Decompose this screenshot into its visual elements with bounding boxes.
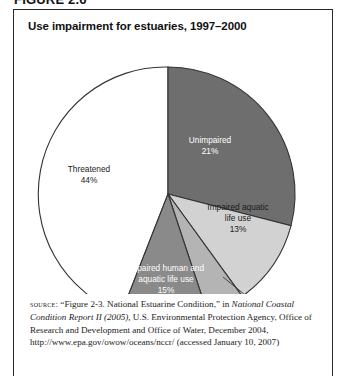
pie-label-impaired-aquatic-value: 13%	[230, 224, 247, 234]
pie-chart: Unimpaired 21% Impaired aquatic life use…	[14, 44, 332, 294]
pie-label-unimpaired-line1: Unimpaired	[189, 135, 232, 145]
pie-label-unimpaired-value: 21%	[202, 146, 219, 156]
pie-label-impaired-human-aquatic-line1: Impaired human and	[128, 263, 204, 273]
pie-chart-svg: Unimpaired 21% Impaired aquatic life use…	[14, 44, 332, 294]
pie-label-impaired-aquatic-line1: Impaired aquatic	[207, 202, 268, 212]
figure-box: Use impairment for estuaries, 1997–2000 …	[13, 9, 333, 376]
figure-number: FIGURE 2.6	[14, 0, 87, 4]
pie-label-impaired-human-aquatic-value: 15%	[158, 285, 175, 294]
chart-title: Use impairment for estuaries, 1997–2000	[28, 20, 247, 32]
pie-label-impaired-human-aquatic-line2: aquatic life use	[138, 274, 194, 284]
pie-label-impaired-aquatic-line2: life use	[225, 213, 252, 223]
pie-label-threatened-value: 44%	[81, 175, 98, 185]
source-text-part1: “Figure 2-3. National Estuarine Conditio…	[58, 299, 232, 309]
pie-slices	[38, 67, 295, 294]
pie-label-threatened-line1: Threatened	[68, 164, 111, 174]
source-label: source:	[30, 300, 58, 309]
source-note: source: “Figure 2-3. National Estuarine …	[30, 298, 320, 348]
